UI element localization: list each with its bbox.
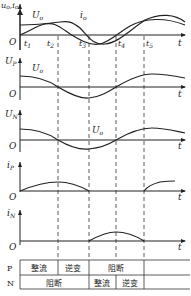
panel-up: UP Uo O t [5,56,186,100]
t4-label: t4 [118,39,125,49]
cell-p-block: 阻断 [108,263,124,273]
time-dashed-lines [58,36,144,260]
svg-text:iN: iN [7,208,16,219]
svg-text:t: t [178,141,182,151]
svg-text:Uo: Uo [32,63,44,74]
panel-in: iN O t [7,208,186,252]
cell-n-block: 阻断 [46,278,62,288]
cell-n-invert: 逆变 [122,278,138,288]
panel-un: UN Uo O t [5,109,186,152]
uo-label: Uo [32,10,44,21]
svg-text:O: O [9,141,17,151]
svg-text:Uo: Uo [92,125,104,136]
t5-label: t5 [146,39,153,49]
row-label-p: P [7,264,13,273]
svg-text:O: O [9,89,17,99]
svg-text:UP: UP [5,56,18,67]
row-label-n: N [7,279,14,288]
cell-p-invert: 逆变 [65,263,81,273]
svg-text:t: t [178,89,182,99]
panel-ip: iP O t [7,160,186,202]
svg-text:t: t [178,242,182,252]
y-axis-label: uo,io [1,1,19,10]
t1-label: t1 [24,39,31,49]
mode-table-text: P N 整流 逆变 阻断 阻断 整流 逆变 [7,263,138,288]
origin-label: O [9,37,17,47]
io-label: io [80,10,87,21]
waveform-diagram: uo,io Uo io O t1 t2 t3 t4 t5 t UP Uo O t… [0,0,191,296]
t-axis-label: t [178,38,182,48]
svg-text:O: O [9,192,17,202]
svg-text:O: O [9,242,17,252]
svg-text:iP: iP [7,160,15,171]
svg-text:UN: UN [5,109,19,120]
cell-n-rectify: 整流 [94,278,110,288]
panel-output: uo,io Uo io O t1 t2 t3 t4 t5 t [1,1,186,50]
svg-text:t: t [178,192,182,202]
t2-label: t2 [47,39,54,49]
cell-p-rectify: 整流 [31,263,47,273]
